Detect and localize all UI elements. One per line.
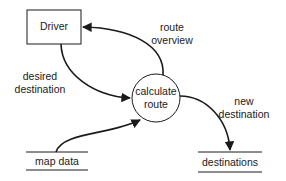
driver-label: Driver <box>40 20 69 32</box>
flow-desired-destination-arrow <box>61 44 130 98</box>
driver-entity: Driver <box>27 10 81 44</box>
destinations-label: destinations <box>202 156 258 168</box>
flow-map-data-arrow <box>56 120 140 152</box>
new-destination-label-line-2: destination <box>219 108 270 120</box>
new-destination-label-line-1: new <box>234 95 254 107</box>
diagram-svg: Driver calculate route map data destinat… <box>0 0 286 181</box>
calculate-route-process: calculate route <box>132 74 180 122</box>
destinations-store: destinations <box>198 152 262 172</box>
desired-destination-label-line-1: desired <box>23 70 58 82</box>
route-overview-label-line-2: overview <box>151 34 193 46</box>
map-data-store: map data <box>26 152 88 170</box>
flow-new-destination-arrow <box>180 96 230 150</box>
desired-destination-label-line-2: destination <box>15 83 66 95</box>
data-flow-diagram: Driver calculate route map data destinat… <box>0 0 286 181</box>
process-label-line-1: calculate <box>135 85 177 97</box>
process-label-line-2: route <box>144 98 168 110</box>
route-overview-label-line-1: route <box>160 21 184 33</box>
map-data-label: map data <box>35 155 79 167</box>
